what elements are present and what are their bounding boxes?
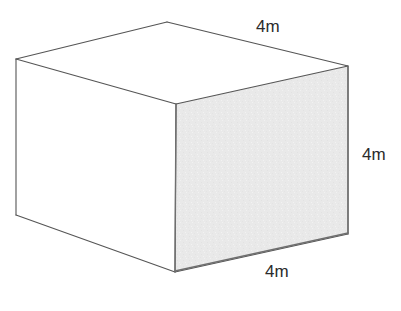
cuboid-drawing xyxy=(0,0,401,311)
figure-root: 4m 4m 4m xyxy=(0,0,401,311)
dimension-label-bottom: 4m xyxy=(265,263,289,280)
dimension-label-top: 4m xyxy=(256,18,280,35)
dimension-label-right: 4m xyxy=(362,146,386,163)
edge-vertical-center-emph xyxy=(175,105,176,271)
